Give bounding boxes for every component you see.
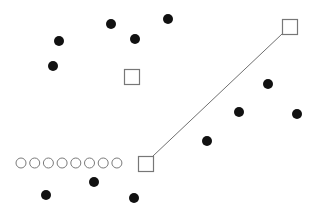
square-bottom bbox=[139, 157, 154, 172]
hollow-circle bbox=[71, 158, 81, 168]
hollow-circle bbox=[16, 158, 26, 168]
filled-dot bbox=[41, 190, 51, 200]
hollow-circle bbox=[112, 158, 122, 168]
hollow-circle bbox=[98, 158, 108, 168]
square-top-right bbox=[283, 20, 298, 35]
squares-group bbox=[125, 20, 298, 172]
hollow-circle bbox=[30, 158, 40, 168]
filled-dot bbox=[130, 34, 140, 44]
filled-dot bbox=[202, 136, 212, 146]
filled-dot bbox=[129, 193, 139, 203]
filled-dot bbox=[263, 79, 273, 89]
filled-dot bbox=[163, 14, 173, 24]
connector-line bbox=[153, 34, 282, 156]
diagram-canvas bbox=[0, 0, 318, 214]
filled-dot bbox=[292, 109, 302, 119]
hollow-circle bbox=[85, 158, 95, 168]
hollow-circles-row bbox=[16, 158, 122, 168]
filled-dot bbox=[89, 177, 99, 187]
square-middle bbox=[125, 70, 140, 85]
diagram-svg bbox=[0, 0, 318, 214]
hollow-circle bbox=[57, 158, 67, 168]
filled-dot bbox=[234, 107, 244, 117]
filled-dot bbox=[48, 61, 58, 71]
filled-dot bbox=[54, 36, 64, 46]
filled-dot bbox=[106, 19, 116, 29]
filled-dots-group bbox=[41, 14, 302, 203]
hollow-circle bbox=[43, 158, 53, 168]
